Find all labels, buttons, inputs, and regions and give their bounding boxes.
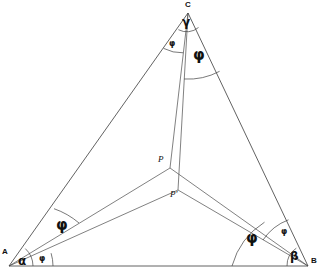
angle-label-phi-B-big: φ <box>246 231 258 246</box>
cevian-C-Pprime <box>178 13 188 190</box>
angle-label-phi-A-small: φ <box>39 255 45 263</box>
arc-phi-C-small <box>164 48 184 52</box>
cevians-to-P <box>9 13 308 266</box>
arc-phi-C-big <box>184 71 220 79</box>
angle-arcs-vertex-A <box>25 209 79 266</box>
point-label-P: P <box>158 155 164 164</box>
angle-label-beta-B: β <box>290 250 299 262</box>
cevians-to-Pprime <box>9 13 308 266</box>
geometry-figure: A B C P P' α φ φ β φ φ γ φ φ <box>0 0 322 274</box>
angle-label-phi-C-small: φ <box>169 40 175 48</box>
arc-phi-A-small <box>51 253 53 266</box>
angle-label-alpha-A: α <box>18 255 26 267</box>
angle-label-phi-C-big: φ <box>193 48 205 63</box>
triangle-edges <box>9 13 308 266</box>
cevian-A-Pprime <box>9 190 178 266</box>
cevian-C-P <box>170 13 188 168</box>
edge-CA <box>9 13 188 266</box>
cevian-B-P <box>170 168 308 266</box>
diagram-canvas <box>0 0 322 274</box>
cevian-B-Pprime <box>178 190 308 266</box>
vertex-label-A: A <box>2 248 8 256</box>
vertex-label-B: B <box>311 257 317 265</box>
point-label-P-prime: P' <box>170 190 177 199</box>
angle-label-phi-B-small: φ <box>281 228 287 236</box>
vertex-label-C: C <box>185 1 191 9</box>
cevian-A-P <box>9 168 170 266</box>
angle-label-gamma-C: γ <box>182 16 190 28</box>
angle-label-phi-A-big: φ <box>56 218 68 233</box>
